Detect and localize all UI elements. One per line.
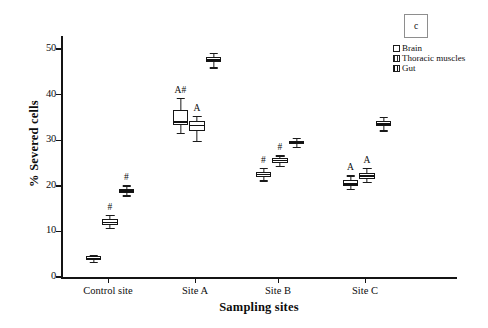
- whisker-cap-lower: [346, 189, 355, 190]
- boxplot-box: [173, 0, 189, 328]
- median-line: [119, 190, 135, 192]
- median-line: [86, 258, 102, 260]
- median-line: [206, 59, 222, 61]
- boxplot-box: [189, 0, 205, 328]
- y-axis-tick: [56, 140, 62, 141]
- whisker-cap-lower: [193, 141, 202, 142]
- y-axis-tick: [56, 94, 62, 95]
- significance-annotation: A: [364, 155, 371, 165]
- legend-item-label: Gut: [402, 64, 416, 73]
- legend-item: Gut: [393, 64, 465, 74]
- panel-label-text: c: [414, 21, 418, 31]
- whisker-cap-upper: [276, 155, 285, 156]
- boxplot-box: [86, 0, 102, 328]
- y-axis-tick-label-wrap: 10: [22, 225, 56, 235]
- significance-annotation: A#: [175, 85, 187, 95]
- median-line: [189, 125, 205, 127]
- legend-item-label: Brain: [402, 44, 422, 53]
- significance-annotation: #: [124, 172, 129, 182]
- boxplot-box: [289, 0, 305, 328]
- whisker-cap-upper: [379, 117, 388, 118]
- y-axis-tick-label: 0: [32, 271, 56, 281]
- whisker-cap-lower: [122, 195, 131, 196]
- median-line: [102, 222, 118, 224]
- median-line: [376, 123, 392, 125]
- whisker-cap-lower: [259, 180, 268, 181]
- y-axis-tick-label-wrap: 50: [22, 43, 56, 53]
- y-axis-tick: [56, 231, 62, 232]
- whisker-lower: [180, 125, 181, 133]
- whisker-cap-lower: [292, 147, 301, 148]
- y-axis-tick: [56, 276, 62, 277]
- whisker-cap-upper: [346, 175, 355, 176]
- y-axis-tick: [56, 185, 62, 186]
- boxplot-box: [102, 0, 118, 328]
- significance-annotation: #: [261, 155, 266, 165]
- whisker-cap-lower: [276, 166, 285, 167]
- y-axis-title: % Severed cells: [27, 64, 42, 224]
- chart-legend: BrainThoracic musclesGut: [393, 44, 465, 74]
- significance-annotation: #: [278, 142, 283, 152]
- whisker-cap-upper: [209, 53, 218, 54]
- whisker-cap-lower: [379, 130, 388, 131]
- whisker-cap-upper: [292, 138, 301, 139]
- y-axis-tick-label: 50: [32, 43, 56, 53]
- y-axis-tick-label-wrap: 0: [22, 271, 56, 281]
- boxplot-box: [376, 0, 392, 328]
- median-line: [359, 175, 375, 177]
- boxplot-box: [119, 0, 135, 328]
- boxplot-box: [272, 0, 288, 328]
- median-line: [256, 174, 272, 176]
- legend-swatch-icon: [393, 65, 400, 72]
- whisker-cap-upper: [363, 168, 372, 169]
- figure-panel: 01020304050 Control siteSite ASite BSite…: [0, 0, 488, 328]
- whisker-cap-upper: [259, 168, 268, 169]
- whisker-cap-upper: [176, 98, 185, 99]
- legend-item: Thoracic muscles: [393, 54, 465, 64]
- y-axis-tick-label: 10: [32, 225, 56, 235]
- significance-annotation: A: [347, 162, 354, 172]
- whisker-cap-upper: [122, 185, 131, 186]
- whisker-cap-lower: [363, 182, 372, 183]
- legend-item: Brain: [393, 44, 465, 54]
- median-line: [343, 183, 359, 185]
- significance-annotation: #: [108, 202, 113, 212]
- whisker-cap-lower: [106, 228, 115, 229]
- panel-label: c: [404, 14, 428, 38]
- legend-item-label: Thoracic muscles: [402, 54, 465, 63]
- whisker-cap-upper: [193, 116, 202, 117]
- boxplot-box: [206, 0, 222, 328]
- whisker-cap-upper: [106, 215, 115, 216]
- whisker-cap-lower: [89, 262, 98, 263]
- whisker-lower: [196, 131, 197, 141]
- legend-swatch-icon: [393, 55, 400, 62]
- median-line: [272, 160, 288, 162]
- y-axis-line: [61, 36, 63, 278]
- legend-swatch-icon: [393, 45, 400, 52]
- y-axis-tick: [56, 48, 62, 49]
- whisker-upper: [180, 98, 181, 110]
- median-line: [289, 142, 305, 144]
- whisker-cap-lower: [209, 67, 218, 68]
- whisker-cap-lower: [176, 133, 185, 134]
- significance-annotation: A: [194, 103, 201, 113]
- median-line: [173, 121, 189, 123]
